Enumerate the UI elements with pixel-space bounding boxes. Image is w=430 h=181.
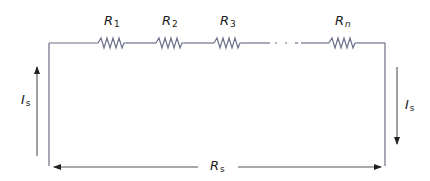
label-current-right-symbol: I — [405, 97, 409, 112]
resistor-r2 — [156, 38, 184, 48]
label-r3: R3 — [220, 14, 236, 29]
resistor-rn — [329, 38, 357, 48]
label-rs-symbol: R — [210, 158, 219, 173]
label-r3-symbol: R — [220, 13, 229, 28]
circuit-svg — [0, 0, 430, 181]
label-current-right-subscript: s — [410, 103, 415, 113]
label-rn-symbol: R — [335, 13, 344, 28]
label-rs-subscript: s — [220, 164, 225, 174]
resistor-r3 — [214, 38, 242, 48]
circuit-wire — [49, 43, 385, 166]
label-r1: R1 — [104, 14, 120, 29]
series-circuit-diagram: R1 R2 R3 Rn Is Is Rs — [0, 0, 430, 181]
label-r1-subscript: 1 — [114, 19, 120, 29]
label-rn: Rn — [335, 14, 351, 29]
label-rn-subscript: n — [345, 19, 351, 29]
label-r2-symbol: R — [162, 13, 171, 28]
label-equivalent-resistance: Rs — [210, 159, 225, 174]
label-r1-symbol: R — [104, 13, 113, 28]
label-r3-subscript: 3 — [230, 19, 236, 29]
label-current-left-symbol: I — [21, 92, 25, 107]
label-r2: R2 — [162, 14, 178, 29]
label-r2-subscript: 2 — [172, 19, 178, 29]
resistor-r1 — [98, 38, 126, 48]
label-current-left: Is — [21, 93, 31, 108]
label-current-left-subscript: s — [26, 98, 31, 108]
label-current-right: Is — [405, 98, 415, 113]
